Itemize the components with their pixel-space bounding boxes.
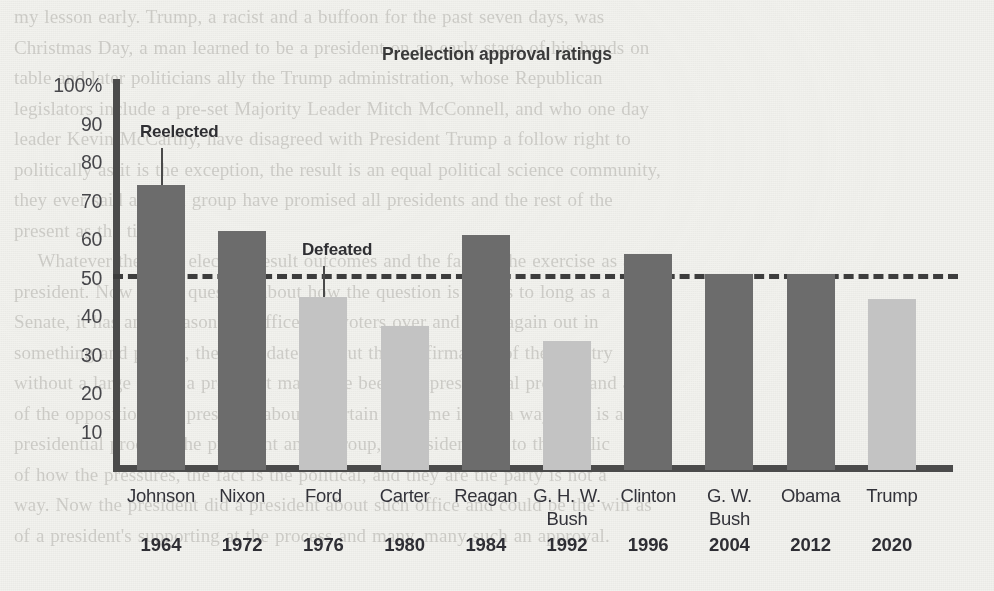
annotation-reelected: Reelected	[140, 122, 219, 142]
y-axis-tick-20: 20	[46, 382, 102, 405]
x-label-2020: Trump	[844, 484, 940, 507]
x-label-name-line2: Bush	[519, 507, 615, 530]
bar-1996	[624, 254, 672, 470]
y-axis-tick-100: 100%	[46, 74, 102, 97]
y-axis-tick-90: 90	[46, 112, 102, 135]
bar-1972	[218, 231, 266, 470]
y-axis-tick-10: 10	[46, 420, 102, 443]
annotation-leader-line-defeated	[323, 266, 325, 297]
y-axis-tick-60: 60	[46, 228, 102, 251]
x-label-name: Trump	[844, 484, 940, 507]
bar-2012	[787, 274, 835, 470]
y-axis-tick-40: 40	[46, 305, 102, 328]
bar-1980	[381, 326, 429, 470]
annotation-leader-line-reelected	[161, 148, 163, 185]
bar-1976	[299, 297, 347, 470]
bar-2020	[868, 299, 916, 470]
y-axis-tick-labels: 100%908070605040302010	[34, 0, 102, 591]
x-label-name-line2: Bush	[681, 507, 777, 530]
annotation-defeated: Defeated	[302, 240, 372, 260]
y-axis-tick-80: 80	[46, 151, 102, 174]
y-axis-tick-50: 50	[46, 266, 102, 289]
x-year-2020: 2020	[844, 534, 940, 556]
bar-1992	[543, 341, 591, 470]
bar-2004	[705, 274, 753, 470]
y-axis-tick-30: 30	[46, 343, 102, 366]
chart-figure: Preelection approval ratings 100%9080706…	[0, 0, 994, 591]
bar-1964	[137, 185, 185, 470]
bar-chart-plot-area: 100%908070605040302010 Johnson1964Nixon1…	[0, 0, 994, 591]
bar-1984	[462, 235, 510, 470]
y-axis-tick-70: 70	[46, 189, 102, 212]
